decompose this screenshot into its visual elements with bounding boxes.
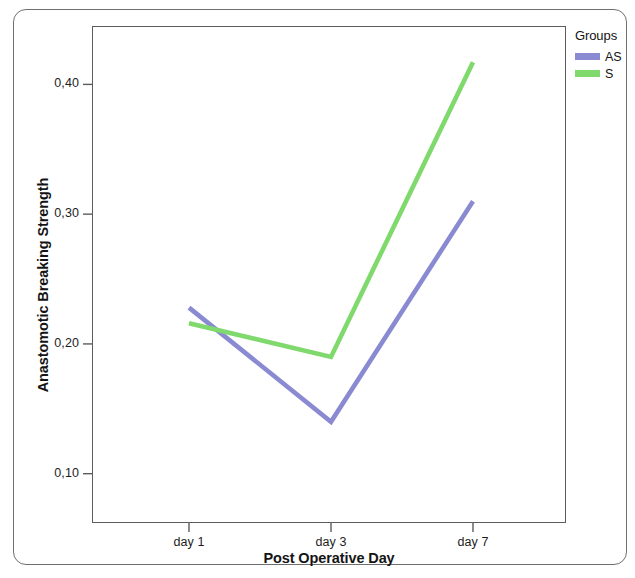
x-tick-label: day 1 [144, 535, 234, 549]
tick-marks [83, 84, 473, 532]
series-line-s [189, 62, 473, 357]
legend: Groups ASS [575, 28, 633, 84]
y-tick-label: 0,40 [27, 76, 79, 90]
x-tick-label: day 7 [428, 535, 518, 549]
line-chart-figure: 0,100,200,300,40 day 1day 3day 7 Anastom… [0, 0, 635, 578]
legend-item-as[interactable]: AS [575, 50, 633, 63]
y-axis-title: Anastomotic Breaking Strength [35, 120, 51, 450]
legend-swatch-icon [575, 70, 600, 77]
legend-entries: ASS [575, 50, 633, 80]
series-lines [189, 62, 473, 422]
series-line-as [189, 201, 473, 422]
legend-item-s[interactable]: S [575, 67, 633, 80]
x-tick-label: day 3 [286, 535, 376, 549]
x-axis-title: Post Operative Day [92, 550, 566, 566]
legend-label: AS [605, 50, 622, 64]
y-tick-label: 0,10 [27, 466, 79, 480]
legend-swatch-icon [575, 53, 600, 60]
legend-label: S [605, 67, 613, 81]
legend-title: Groups [575, 28, 633, 43]
chart-overlay [0, 0, 635, 578]
